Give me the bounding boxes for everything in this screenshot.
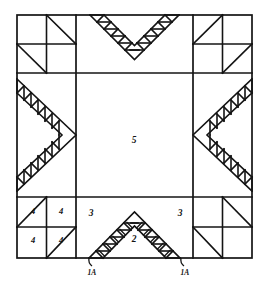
callout-1a-right: 1A <box>181 268 190 277</box>
corner-patch-label-2: 4 <box>58 206 63 216</box>
corner-patch-label-4: 4 <box>58 235 63 245</box>
center-square-label: 5 <box>132 135 137 145</box>
quilt-diagram-container: 5 3 3 2 4 4 4 4 1A 1A <box>0 0 269 283</box>
bottom-center-triangle-label: 2 <box>131 234 137 244</box>
callout-1a-left: 1A <box>88 268 97 277</box>
corner-patch-label-1: 4 <box>30 206 35 216</box>
bottom-left-triangle-label: 3 <box>88 208 94 218</box>
bottom-right-triangle-label: 3 <box>177 208 183 218</box>
corner-patch-label-3: 4 <box>30 235 35 245</box>
quilt-block-diagram: 5 3 3 2 4 4 4 4 1A 1A <box>0 0 269 283</box>
